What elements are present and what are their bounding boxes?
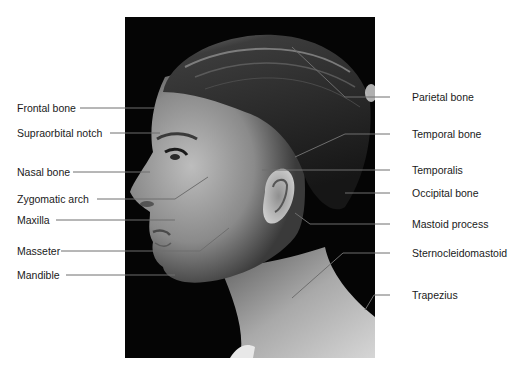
label-mandible: Mandible (17, 269, 60, 281)
label-occipital-bone: Occipital bone (412, 187, 479, 199)
label-temporalis: Temporalis (412, 164, 463, 176)
label-supraorbital-notch: Supraorbital notch (17, 127, 102, 139)
label-nasal-bone: Nasal bone (17, 166, 70, 178)
label-zygomatic-arch: Zygomatic arch (17, 193, 89, 205)
head-profile-photo (125, 17, 375, 358)
label-maxilla: Maxilla (17, 214, 50, 226)
head-profile-illustration (125, 17, 375, 358)
label-frontal-bone: Frontal bone (17, 102, 76, 114)
label-sternocleidomastoid: Sternocleidomastoid (412, 247, 507, 259)
label-trapezius: Trapezius (412, 289, 458, 301)
label-mastoid-process: Mastoid process (412, 218, 488, 230)
anatomy-figure: Frontal bone Supraorbital notch Nasal bo… (0, 0, 525, 366)
label-temporal-bone: Temporal bone (412, 128, 481, 140)
label-masseter: Masseter (17, 245, 60, 257)
label-parietal-bone: Parietal bone (412, 91, 474, 103)
